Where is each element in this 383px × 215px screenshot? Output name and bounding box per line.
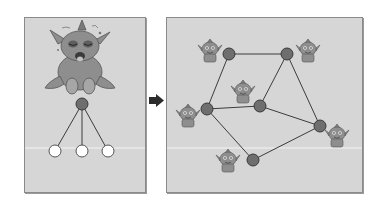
tree-leaf-node — [76, 145, 88, 157]
network-node-d — [254, 100, 266, 112]
network-node-f — [247, 154, 259, 166]
happy-monster-icon — [231, 80, 255, 103]
happy-monster-icon — [325, 124, 349, 147]
network-node-a — [223, 48, 235, 60]
tree-edges — [55, 104, 108, 151]
network-node-c — [201, 103, 213, 115]
diagram-canvas — [0, 0, 383, 215]
arrow-right-icon — [149, 94, 164, 107]
sad-monster-icon — [45, 20, 115, 94]
network-node-e — [314, 120, 326, 132]
network-node-b — [281, 48, 293, 60]
happy-monster-icon — [198, 39, 222, 62]
happy-monster-icon — [296, 39, 320, 62]
tree-leaf-node — [102, 145, 114, 157]
tree-root-node — [76, 98, 88, 110]
happy-monster-icon — [176, 104, 200, 127]
tree-leaf-node — [49, 145, 61, 157]
happy-monster-icon — [216, 149, 240, 172]
